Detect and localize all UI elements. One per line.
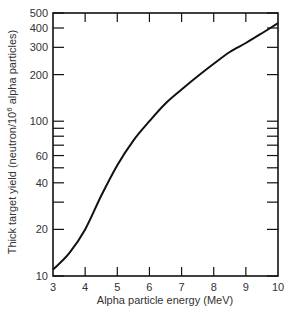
x-tick-label: 6 [146, 281, 152, 293]
x-tick-label: 4 [82, 281, 88, 293]
y-tick-label: 500 [30, 7, 48, 19]
y-tick-label: 200 [30, 69, 48, 81]
plot-border [53, 13, 278, 276]
x-tick-label: 8 [211, 281, 217, 293]
y-tick-label: 60 [36, 150, 48, 162]
x-tick-label: 7 [179, 281, 185, 293]
y-tick-label: 20 [36, 223, 48, 235]
y-axis-ticks: 10204060100200300400500 [30, 7, 278, 282]
x-tick-label: 10 [272, 281, 284, 293]
chart: 10204060100200300400500 345678910 Alpha … [0, 0, 293, 320]
y-tick-label: 40 [36, 177, 48, 189]
x-axis-ticks: 345678910 [50, 13, 284, 293]
y-tick-label: 400 [30, 22, 48, 34]
x-tick-label: 3 [50, 281, 56, 293]
y-axis-label: Thick target yield (neutron/106 alpha pa… [5, 30, 18, 255]
plot-frame [53, 13, 278, 276]
yield-curve [53, 23, 278, 269]
x-tick-label: 9 [243, 281, 249, 293]
y-tick-label: 300 [30, 41, 48, 53]
x-tick-label: 5 [114, 281, 120, 293]
y-tick-label: 10 [36, 270, 48, 282]
x-axis-label: Alpha particle energy (MeV) [97, 294, 233, 306]
y-tick-label: 100 [30, 115, 48, 127]
